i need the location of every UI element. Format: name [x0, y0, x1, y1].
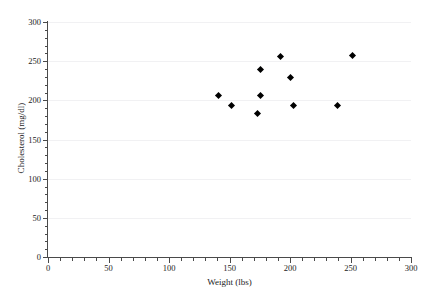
x-axis-minor-tick: [96, 258, 97, 261]
y-axis-minor-tick: [45, 249, 48, 250]
x-axis-minor-tick: [338, 258, 339, 261]
data-point: [254, 110, 261, 117]
x-axis-minor-tick: [84, 258, 85, 261]
x-axis-minor-tick: [205, 258, 206, 261]
y-axis-tick-label: 250: [5, 57, 41, 66]
y-axis-minor-tick: [45, 226, 48, 227]
y-axis-minor-tick: [45, 187, 48, 188]
y-axis-minor-tick: [45, 69, 48, 70]
x-axis-minor-tick: [375, 258, 376, 261]
x-axis-tick-label: 100: [149, 264, 189, 273]
x-axis-minor-tick: [121, 258, 122, 261]
y-axis-minor-tick: [45, 234, 48, 235]
x-axis-minor-tick: [193, 258, 194, 261]
x-axis-minor-tick: [326, 258, 327, 261]
y-axis-major-tick: [43, 61, 48, 62]
x-axis-minor-tick: [314, 258, 315, 261]
x-axis-minor-tick: [242, 258, 243, 261]
y-axis-minor-tick: [45, 202, 48, 203]
gridline-horizontal: [48, 218, 411, 219]
x-axis-minor-tick: [363, 258, 364, 261]
y-axis-minor-tick: [45, 155, 48, 156]
x-axis-minor-tick: [278, 258, 279, 261]
data-point: [215, 92, 222, 99]
x-axis-minor-tick: [399, 258, 400, 261]
data-point: [349, 52, 356, 59]
x-axis-title: Weight (lbs): [48, 277, 411, 287]
y-axis-minor-tick: [45, 210, 48, 211]
x-axis-tick-label: 200: [270, 264, 310, 273]
y-axis-minor-tick: [45, 194, 48, 195]
gridline-horizontal: [48, 61, 411, 62]
scatter-chart-figure: 050100150200250300 Weight (lbs) Choleste…: [0, 0, 425, 295]
y-axis-minor-tick: [45, 124, 48, 125]
x-axis-tick-label: 250: [331, 264, 371, 273]
y-axis-minor-tick: [45, 46, 48, 47]
x-axis-minor-tick: [254, 258, 255, 261]
gridline-horizontal: [48, 140, 411, 141]
gridline-horizontal: [48, 179, 411, 180]
y-axis-major-tick: [43, 100, 48, 101]
y-axis-minor-tick: [45, 93, 48, 94]
chart-title: [60, 0, 360, 10]
x-axis-minor-tick: [60, 258, 61, 261]
x-axis-tick-label: 50: [89, 264, 129, 273]
y-axis-tick-label: 300: [5, 18, 41, 27]
x-axis-tick-label: 0: [28, 264, 68, 273]
y-axis-minor-tick: [45, 30, 48, 31]
data-point: [257, 66, 264, 73]
plot-area: [48, 22, 411, 257]
x-axis-minor-tick: [181, 258, 182, 261]
y-axis-major-tick: [43, 179, 48, 180]
x-axis-minor-tick: [72, 258, 73, 261]
y-axis-minor-tick: [45, 77, 48, 78]
y-axis-minor-tick: [45, 116, 48, 117]
x-axis-minor-tick: [266, 258, 267, 261]
data-point: [286, 74, 293, 81]
y-axis-minor-tick: [45, 132, 48, 133]
data-point: [334, 101, 341, 108]
y-axis-tick-label: 50: [5, 214, 41, 223]
x-axis-minor-tick: [217, 258, 218, 261]
data-point: [228, 101, 235, 108]
x-axis-minor-tick: [133, 258, 134, 261]
y-axis-title: Cholesterol (mg/dl): [16, 78, 26, 198]
x-axis-tick-label: 300: [391, 264, 425, 273]
data-point: [277, 53, 284, 60]
y-axis-minor-tick: [45, 85, 48, 86]
y-axis-major-tick: [43, 218, 48, 219]
data-point: [257, 92, 264, 99]
x-axis-minor-tick: [387, 258, 388, 261]
x-axis-minor-tick: [302, 258, 303, 261]
y-axis-minor-tick: [45, 147, 48, 148]
data-point: [290, 101, 297, 108]
y-axis-minor-tick: [45, 53, 48, 54]
x-axis-minor-tick: [145, 258, 146, 261]
gridline-horizontal: [48, 100, 411, 101]
y-axis-major-tick: [43, 22, 48, 23]
x-axis-tick-label: 150: [210, 264, 250, 273]
y-axis-minor-tick: [45, 163, 48, 164]
y-axis-tick-label: 0: [5, 253, 41, 262]
y-axis-minor-tick: [45, 38, 48, 39]
y-axis-minor-tick: [45, 108, 48, 109]
y-axis-minor-tick: [45, 171, 48, 172]
x-axis-minor-tick: [157, 258, 158, 261]
y-axis-minor-tick: [45, 241, 48, 242]
gridline-horizontal: [48, 22, 411, 23]
y-axis-major-tick: [43, 140, 48, 141]
